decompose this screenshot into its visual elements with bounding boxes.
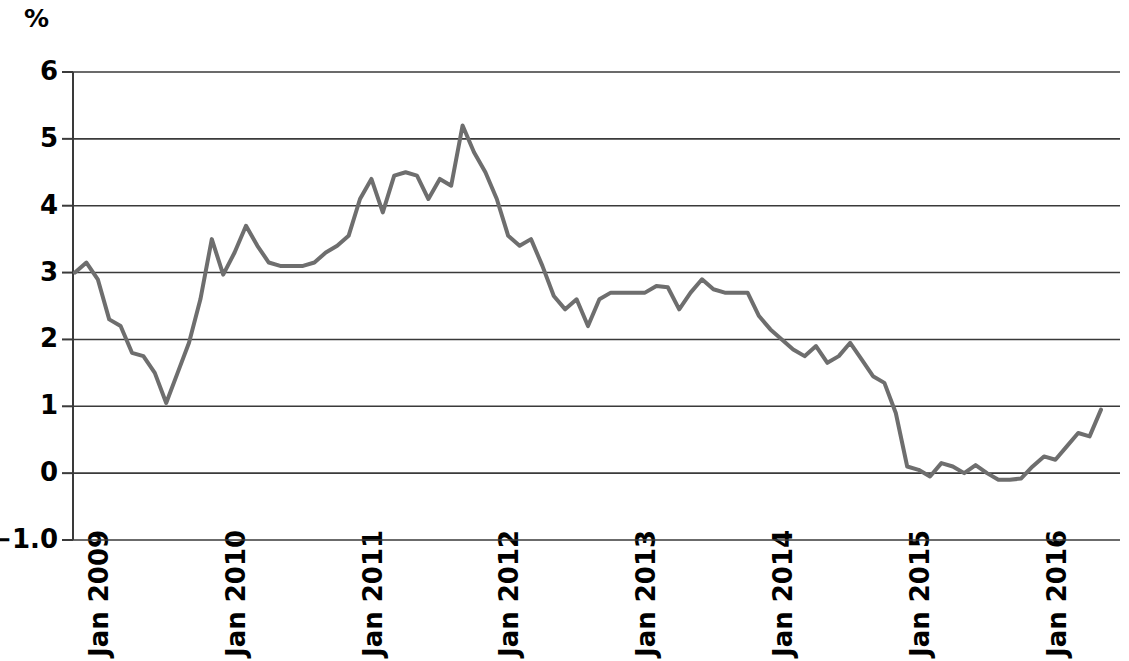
data-line-inflation-rate bbox=[75, 125, 1101, 479]
line-chart: % 6543210−1.0 Jan 2009Jan 2010Jan 2011Ja… bbox=[0, 0, 1129, 661]
axis-ticks bbox=[62, 72, 73, 540]
plot-area bbox=[0, 0, 1129, 661]
